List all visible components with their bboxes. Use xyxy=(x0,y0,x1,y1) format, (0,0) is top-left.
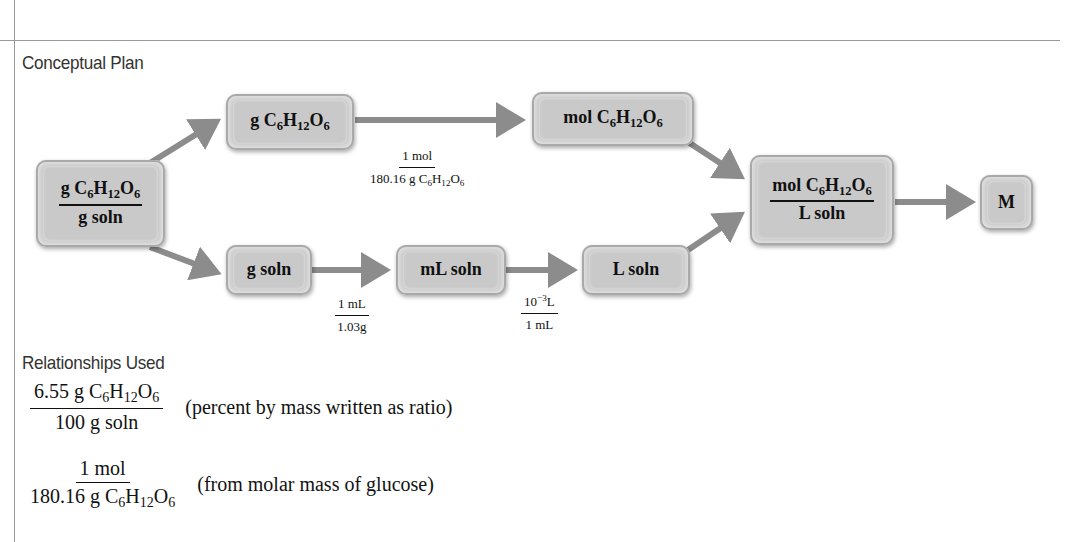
node-molarity: M xyxy=(980,175,1033,230)
factor-ml-to-l: 10−3L 1 mL xyxy=(521,293,558,333)
node-l-soln: L soln xyxy=(582,245,690,295)
factor-density: 1 mL 1.03g xyxy=(335,296,369,335)
node-mol-glucose: mol C6H12O6 xyxy=(532,92,694,146)
relationship-molar-mass: 1 mol 180.16 g C6H12O6 (from molar mass … xyxy=(30,457,434,511)
relationships-used-heading: Relationships Used xyxy=(22,352,164,374)
node-mass-percent: g C6H12O6 g soln xyxy=(36,160,165,247)
node-g-glucose: g C6H12O6 xyxy=(226,94,354,150)
arrow-start-to-g-glucose xyxy=(150,122,216,163)
arrow-mol-to-ratio xyxy=(685,140,740,176)
node-molarity-ratio: mol C6H12O6 L soln xyxy=(750,155,894,245)
arrow-l-to-ratio xyxy=(685,215,740,252)
arrow-start-to-g-soln xyxy=(150,247,216,272)
relationship-mass-percent: 6.55 g C6H12O6 100 g soln (percent by ma… xyxy=(30,380,452,434)
factor-molar-mass: 1 mol 180.16 g C6H12O6 xyxy=(370,148,464,188)
node-g-soln: g soln xyxy=(226,245,312,295)
node-ml-soln: mL soln xyxy=(396,245,506,295)
